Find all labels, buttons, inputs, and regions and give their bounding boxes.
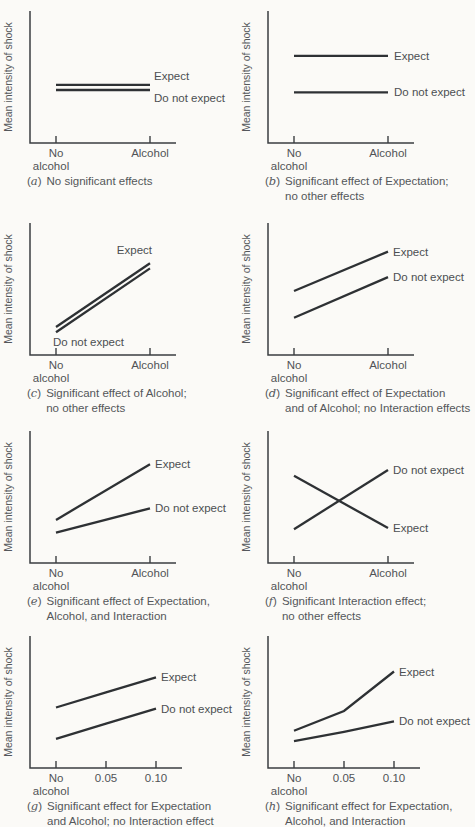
chart-a: Mean intensity of shockNoalcoholAlcoholE… [0,3,237,173]
x-tick-label: 0.05 [333,772,355,784]
caption-text: Significant effect for Expectationand Al… [47,799,214,827]
series-label-expect: Expect [393,246,429,258]
x-tick-label: No [49,147,64,159]
panel-f: Mean intensity of shockNoalcoholAlcoholD… [238,410,475,620]
y-axis-label: Mean intensity of shock [240,21,252,131]
panel-a: Mean intensity of shockNoalcoholAlcoholE… [0,0,238,195]
series-label-do-not-expect: Do not expect [393,271,465,283]
x-tick-label: No [287,567,302,579]
panel-caption-a: (a)No significant effects [0,174,238,189]
panels-grid: Mean intensity of shockNoalcoholAlcoholE… [0,0,475,827]
series-label-do-not-expect: Do not expect [161,703,233,715]
chart-h: Mean intensity of shockNoalcohol0.050.10… [238,628,475,798]
series-label-do-not-expect: Do not expect [394,86,466,98]
axes [268,431,414,563]
chart-c: Mean intensity of shockNoalcoholAlcoholE… [0,215,237,385]
x-tick-label: alcohol [33,372,69,384]
y-axis-label: Mean intensity of shock [2,233,14,343]
chart-f: Mean intensity of shockNoalcoholAlcoholD… [238,423,475,593]
series-label-expect: Expect [394,50,430,62]
x-tick-label: alcohol [33,785,69,797]
axes [30,431,176,563]
y-axis-label: Mean intensity of shock [240,441,252,551]
x-tick-label: No [49,567,64,579]
axes [268,636,420,768]
series-line-do-not-expect [294,277,388,318]
x-tick-label: alcohol [33,580,69,592]
caption-text: Significant effect for Expectation,Alcoh… [285,799,452,827]
x-tick-label: alcohol [33,160,69,172]
figure-page: Mean intensity of shockNoalcoholAlcoholE… [0,0,475,827]
axes [30,636,182,768]
y-axis-label: Mean intensity of shock [240,233,252,343]
y-axis-label: Mean intensity of shock [2,21,14,131]
series-label-expect: Expect [155,458,191,470]
caption-text: No significant effects [47,174,153,189]
x-tick-label: No [287,359,302,371]
series-line-do-not-expect [56,268,150,332]
series-label-expect: Expect [161,671,197,683]
x-tick-label: alcohol [271,785,307,797]
panel-caption-h: (h)Significant effect for Expectation,Al… [238,799,475,827]
axes [268,223,414,355]
series-label-expect: Expect [393,522,429,534]
series-label-do-not-expect: Do not expect [53,336,125,348]
x-tick-label: Alcohol [131,147,169,159]
caption-letter: (h) [265,799,280,827]
x-tick-label: No [49,359,64,371]
series-label-do-not-expect: Do not expect [399,715,471,727]
panel-h: Mean intensity of shockNoalcohol0.050.10… [238,620,475,827]
series-label-do-not-expect: Do not expect [393,464,465,476]
x-tick-label: alcohol [271,580,307,592]
chart-g: Mean intensity of shockNoalcohol0.050.10… [0,628,237,798]
x-tick-label: alcohol [271,372,307,384]
panel-caption-g: (g)Significant effect for Expectationand… [0,799,238,827]
panel-e: Mean intensity of shockNoalcoholAlcoholE… [0,410,238,620]
chart-d: Mean intensity of shockNoalcoholAlcoholE… [238,215,475,385]
panel-d: Mean intensity of shockNoalcoholAlcoholE… [238,195,475,410]
series-label-expect: Expect [154,70,190,82]
chart-e: Mean intensity of shockNoalcoholAlcoholE… [0,423,237,593]
series-line-expect [294,672,394,731]
chart-b: Mean intensity of shockNoalcoholAlcoholE… [238,3,475,173]
panel-g: Mean intensity of shockNoalcohol0.050.10… [0,620,238,827]
y-axis-label: Mean intensity of shock [240,646,252,756]
series-label-do-not-expect: Do not expect [154,92,226,104]
x-tick-label: alcohol [271,160,307,172]
x-tick-label: Alcohol [369,147,407,159]
x-tick-label: Alcohol [369,359,407,371]
series-line-expect [294,252,388,291]
caption-letter: (g) [27,799,42,827]
series-label-do-not-expect: Do not expect [155,502,227,514]
x-tick-label: 0.05 [95,772,117,784]
x-tick-label: No [49,772,64,784]
panel-c: Mean intensity of shockNoalcoholAlcoholE… [0,195,238,410]
series-label-expect: Expect [399,666,435,678]
series-line-expect [56,263,150,327]
series-line-do-not-expect [56,709,156,739]
x-tick-label: 0.10 [145,772,167,784]
x-tick-label: Alcohol [131,567,169,579]
panel-b: Mean intensity of shockNoalcoholAlcoholE… [238,0,475,195]
x-tick-label: No [287,772,302,784]
x-tick-label: 0.10 [383,772,405,784]
x-tick-label: Alcohol [369,567,407,579]
y-axis-label: Mean intensity of shock [2,646,14,756]
x-tick-label: Alcohol [131,359,169,371]
series-label-expect: Expect [117,244,153,256]
x-tick-label: No [287,147,302,159]
y-axis-label: Mean intensity of shock [2,441,14,551]
caption-letter: (a) [27,174,42,189]
axes [268,11,414,143]
series-line-expect [56,677,156,707]
